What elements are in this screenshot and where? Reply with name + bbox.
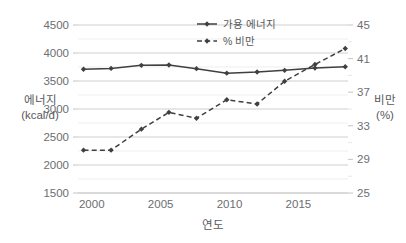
right-tick-label: 41 [357,53,370,65]
x-axis-title: 연도 [202,219,224,231]
left-tick-label: 2000 [43,159,69,171]
left-tick-label: 3500 [43,75,69,87]
series-marker [343,46,348,51]
left-tick-label: 4500 [43,19,69,31]
x-tick-label: 2005 [148,198,174,210]
chart-container: 1500200025003000350040004500252933374145… [0,0,406,243]
left-axis-title-line2: (kcal/d) [21,109,59,121]
x-tick-label: 2010 [217,198,243,210]
series-line-2 [84,49,346,151]
legend-marker-1 [204,21,209,26]
right-tick-label: 45 [357,19,370,31]
left-axis-title-line1: 에너지 [24,94,57,106]
series-line-1 [84,65,346,73]
right-axis-title-line2: (%) [376,109,394,121]
series-marker [282,68,287,73]
series-marker [254,69,259,74]
left-tick-label: 2500 [43,131,69,143]
series-marker [224,70,229,75]
series-marker [108,147,113,152]
series-marker [108,66,113,71]
right-tick-label: 33 [357,120,370,132]
x-tick-label: 2000 [79,198,105,210]
right-tick-label: 25 [357,187,370,199]
right-tick-label: 29 [357,153,370,165]
series-marker [343,64,348,69]
series-marker [81,67,86,72]
left-tick-label: 1500 [43,187,69,199]
series-marker [81,147,86,152]
right-axis-title-line1: 비만 [374,94,396,106]
axis-titles: 에너지(kcal/d)비만(%)연도 [21,94,396,231]
left-tick-label: 4000 [43,47,69,59]
right-axis: 252933374145 [348,19,370,199]
right-tick-label: 37 [357,86,370,98]
legend-label-2: % 비만 [223,35,255,47]
x-tick-label: 2015 [286,198,312,210]
x-axis: 2000200520102015 [79,198,311,210]
legend: 가용 에너지% 비만 [197,18,276,47]
legend-label-1: 가용 에너지 [223,18,276,30]
line-chart: 1500200025003000350040004500252933374145… [0,0,406,243]
